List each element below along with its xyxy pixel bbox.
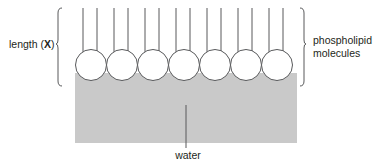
length-label-variable: X <box>44 38 51 50</box>
phospholipid-head <box>262 50 293 81</box>
phospholipid-monolayer-diagram: length (X) phospholipid molecules water <box>0 0 381 166</box>
phospholipid-head <box>169 50 200 81</box>
phospholipid-head <box>76 50 107 81</box>
phospholipid-head <box>200 50 231 81</box>
diagram-canvas <box>0 0 381 166</box>
left-brace <box>56 8 62 86</box>
phospholipid-tails-group <box>83 8 283 52</box>
phospholipid-head <box>107 50 138 81</box>
phospholipid-molecules-label: phospholipid molecules <box>313 34 379 59</box>
length-label-suffix: ) <box>51 38 55 50</box>
length-label: length (X) <box>9 38 55 51</box>
right-brace <box>300 8 306 86</box>
phospholipid-head <box>231 50 262 81</box>
phospholipid-head <box>138 50 169 81</box>
length-label-prefix: length ( <box>9 38 44 50</box>
water-label: water <box>168 149 208 162</box>
